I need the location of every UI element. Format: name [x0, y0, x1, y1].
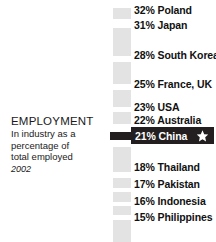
caption-line-3: total employed: [11, 151, 103, 163]
row-label-indonesia: 16% Indonesia: [134, 195, 206, 207]
scale-segment: [113, 62, 131, 84]
row-label-philippines: 15% Philippines: [134, 211, 212, 223]
row-label-japan: 31% Japan: [134, 19, 187, 31]
scale-segment: [113, 90, 131, 107]
scale-segment: [113, 178, 131, 188]
row-label-thailand: 18% Thailand: [134, 161, 200, 173]
row-label-france-uk: 25% France, UK: [134, 78, 212, 90]
row-label-australia: 22% Australia: [134, 114, 201, 126]
scale-segment: [113, 8, 131, 19]
scale-segment: [113, 192, 131, 202]
caption-year: 2002: [11, 163, 103, 175]
row-label-usa: 23% USA: [134, 101, 179, 113]
scale-segment: [113, 220, 131, 242]
row-label-poland: 32% Poland: [134, 4, 192, 16]
employment-infographic: EMPLOYMENT In industry as a percentage o…: [0, 0, 216, 242]
row-label-pakistan: 17% Pakistan: [134, 178, 200, 190]
caption-line-1: In industry as a: [11, 128, 103, 140]
caption-block: EMPLOYMENT In industry as a percentage o…: [11, 115, 103, 175]
star-icon: [196, 129, 209, 142]
page-title: EMPLOYMENT: [11, 115, 103, 128]
scale-segment: [113, 112, 131, 124]
scale-segment: [113, 147, 131, 172]
highlight-label-china: 21% China: [135, 130, 187, 142]
scale-segment: [113, 206, 131, 215]
highlight-box-china[interactable]: 21% China: [131, 127, 214, 144]
row-label-south-korea: 28% South Korea: [134, 49, 216, 61]
scale-segment: [113, 28, 131, 56]
scale-column: [113, 0, 131, 242]
caption-line-2: percentage of: [11, 140, 103, 152]
